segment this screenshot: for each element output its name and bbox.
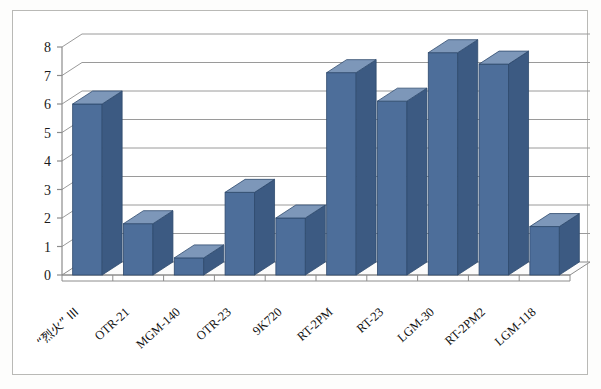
- bar-side-face: [407, 88, 427, 275]
- bar-front-face: [377, 101, 406, 275]
- y-tick-label: 0: [44, 268, 51, 283]
- y-tick-label: 1: [44, 240, 51, 255]
- bar-6[interactable]: [327, 60, 376, 275]
- category-labels-group: “烈火” IIIOTR-21MGM-140OTR-239K720RT-2PMRT…: [34, 305, 538, 352]
- bar-7[interactable]: [377, 88, 426, 275]
- bar-9[interactable]: [479, 51, 528, 275]
- category-label: RT-2PM2: [442, 305, 488, 348]
- bar-5[interactable]: [276, 205, 325, 275]
- bar-front-face: [174, 258, 203, 275]
- y-tick-label: 7: [44, 69, 51, 84]
- y-axis-tick-labels: 012345678: [44, 40, 51, 283]
- chart-figure: 012345678 “烈火” IIIOTR-21MGM-140OTR-239K7…: [0, 0, 601, 389]
- y-tick-label: 8: [44, 40, 51, 55]
- bar-8[interactable]: [428, 40, 477, 275]
- category-label: 9K720: [250, 305, 285, 338]
- category-label: “烈火” III: [34, 305, 81, 349]
- bar-10[interactable]: [530, 214, 579, 275]
- category-label: MGM-140: [133, 305, 183, 352]
- bar-side-face: [458, 40, 478, 275]
- category-label: RT-2PM: [294, 305, 335, 344]
- bar-front-face: [428, 53, 457, 275]
- category-label: OTR-21: [92, 305, 132, 343]
- category-label: OTR-23: [193, 305, 233, 343]
- category-label: LGM-118: [492, 305, 539, 349]
- bars-group: [73, 40, 580, 275]
- y-tick-label: 3: [44, 183, 51, 198]
- bar-side-face: [255, 179, 275, 275]
- bar-front-face: [327, 73, 356, 275]
- category-label: LGM-30: [395, 305, 437, 345]
- bar-front-face: [123, 224, 152, 275]
- gridline: [62, 34, 590, 47]
- bar-side-face: [102, 91, 122, 275]
- bar-front-face: [479, 64, 508, 275]
- bar-chart-3d: 012345678 “烈火” IIIOTR-21MGM-140OTR-239K7…: [0, 0, 601, 389]
- bar-front-face: [276, 218, 305, 275]
- bar-front-face: [225, 192, 254, 275]
- bar-front-face: [73, 104, 102, 275]
- y-tick-label: 2: [44, 211, 51, 226]
- bar-4[interactable]: [225, 179, 274, 275]
- bar-front-face: [530, 227, 559, 275]
- bar-2[interactable]: [123, 211, 172, 275]
- bar-1[interactable]: [73, 91, 122, 275]
- category-label: RT-23: [354, 305, 386, 336]
- y-tick-label: 4: [44, 154, 51, 169]
- bar-side-face: [509, 51, 529, 275]
- bar-side-face: [356, 60, 376, 275]
- y-tick-label: 6: [44, 97, 51, 112]
- y-tick-label: 5: [44, 126, 51, 141]
